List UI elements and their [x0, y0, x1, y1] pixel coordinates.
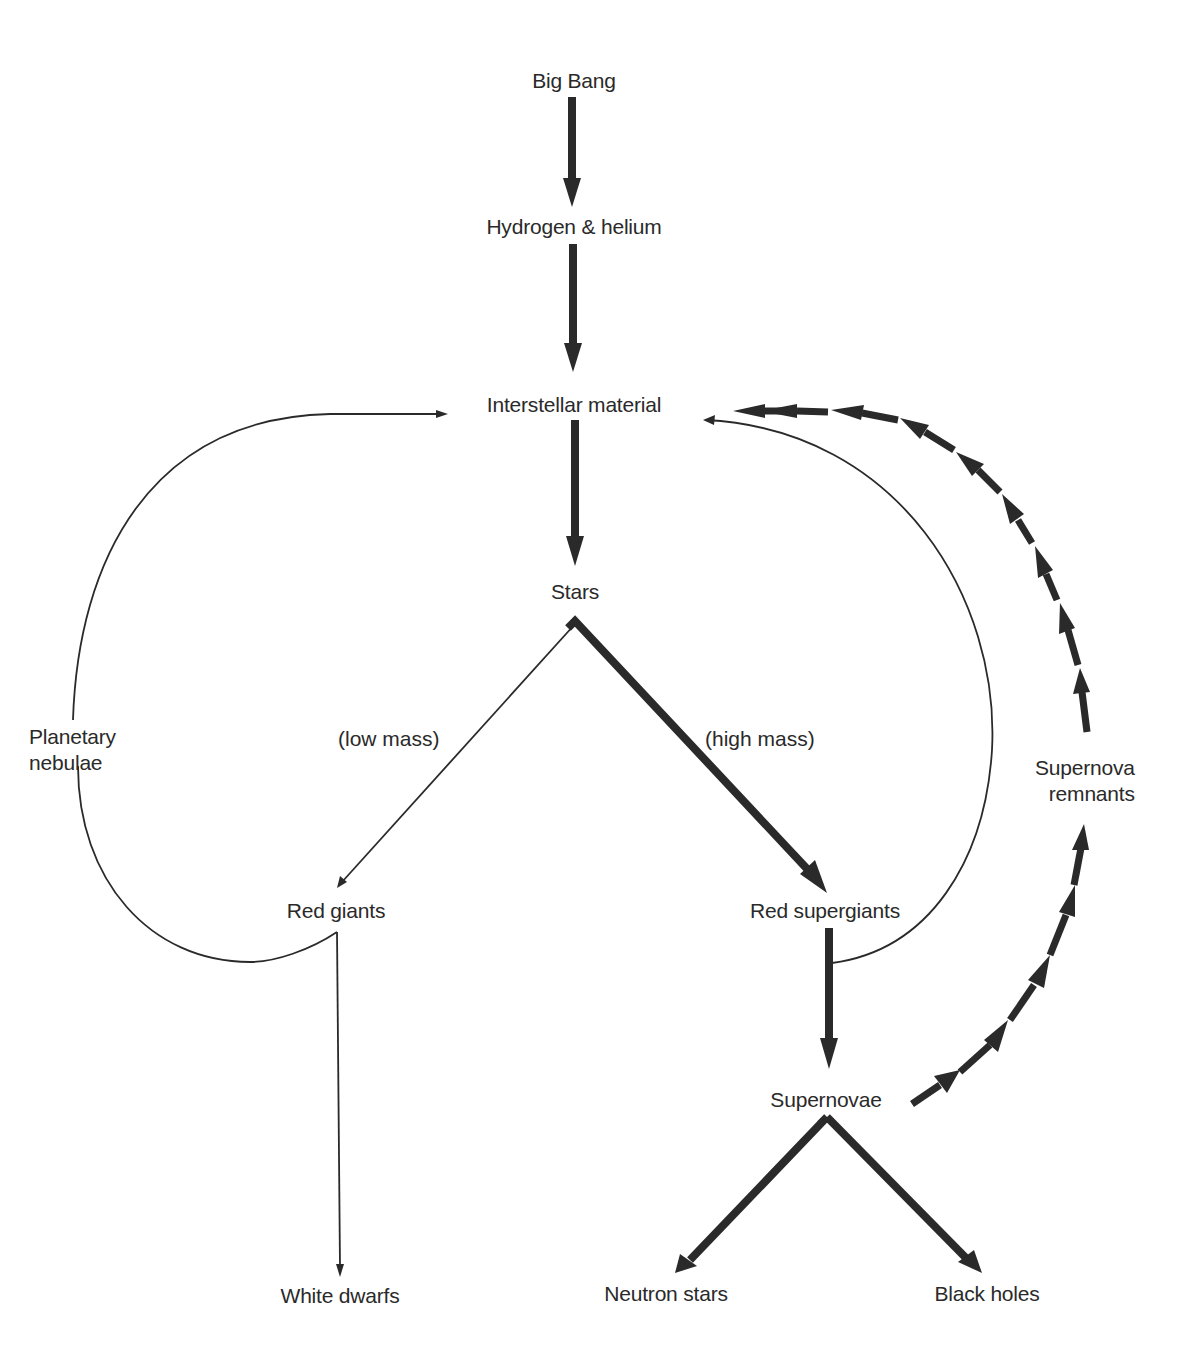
- node-stars: Stars: [551, 579, 599, 605]
- node-black-holes: Black holes: [934, 1281, 1039, 1307]
- arrow-redgiants-to-whitedwarfs: [336, 932, 344, 1277]
- node-supernovae: Supernovae: [770, 1087, 881, 1113]
- arrow-bigbang-to-hydrogen: [563, 97, 581, 207]
- edge-label-high-mass: (high mass): [705, 727, 815, 751]
- node-planetary-nebulae: Planetary nebulae: [29, 724, 116, 776]
- arrow-supernovae-to-blackholes: [827, 1117, 982, 1273]
- loop-redgiants-to-interstellar: [73, 410, 448, 962]
- dashed-arrow-supernovae-to-remnants: [912, 824, 1089, 1104]
- edge-label-low-mass: (low mass): [338, 727, 440, 751]
- dashed-arrow-remnants-to-interstellar: [733, 404, 1090, 732]
- arrow-redsupergiants-to-supernovae: [820, 928, 838, 1069]
- node-red-giants: Red giants: [287, 898, 385, 924]
- node-supernova-remnants: Supernova remnants: [1035, 755, 1135, 807]
- node-interstellar-material: Interstellar material: [487, 392, 661, 418]
- arrow-stars-to-redgiants: [337, 624, 575, 888]
- node-hydrogen-helium: Hydrogen & helium: [486, 214, 661, 240]
- arrow-interstellar-to-stars: [566, 420, 584, 566]
- arrow-stars-to-redsupergiants: [568, 621, 827, 893]
- node-red-supergiants: Red supergiants: [750, 898, 900, 924]
- stellar-cycle-diagram: [0, 0, 1200, 1366]
- arrow-supernovae-to-neutronstars: [675, 1117, 827, 1273]
- loop-redsupergiants-to-interstellar: [703, 415, 992, 963]
- node-neutron-stars: Neutron stars: [604, 1281, 727, 1307]
- node-white-dwarfs: White dwarfs: [281, 1283, 400, 1309]
- arrow-hydrogen-to-interstellar: [564, 244, 582, 372]
- node-big-bang: Big Bang: [532, 68, 616, 94]
